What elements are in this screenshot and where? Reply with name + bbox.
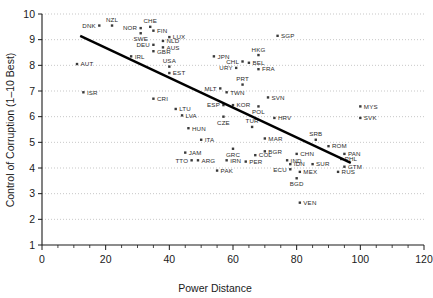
point-marker bbox=[184, 151, 186, 153]
point-label: ECU bbox=[273, 166, 287, 173]
data-point: DEU bbox=[136, 41, 154, 48]
x-tick-label: 0 bbox=[39, 253, 45, 265]
point-label: TWN bbox=[230, 89, 245, 96]
trendline bbox=[80, 36, 351, 163]
point-label: ARG bbox=[201, 157, 215, 164]
point-marker bbox=[181, 114, 183, 116]
data-point: AUT bbox=[76, 60, 94, 67]
data-point: SGP bbox=[276, 32, 294, 39]
point-marker bbox=[130, 55, 132, 57]
point-label: POL bbox=[252, 108, 265, 115]
data-point: SRB bbox=[309, 130, 322, 141]
point-label: MYS bbox=[364, 103, 378, 110]
point-label: SVK bbox=[364, 114, 378, 121]
point-marker bbox=[152, 50, 154, 52]
point-marker bbox=[139, 27, 141, 29]
data-point: BGD bbox=[290, 177, 304, 187]
point-marker bbox=[289, 163, 291, 165]
point-label: MEX bbox=[303, 168, 317, 175]
point-marker bbox=[190, 159, 192, 161]
point-marker bbox=[241, 60, 243, 62]
data-point: HKG bbox=[252, 46, 266, 57]
point-label: IDN bbox=[294, 160, 305, 167]
y-axis-title: Control of Corruption (1–10 Best) bbox=[4, 53, 16, 208]
x-tick-label: 40 bbox=[163, 253, 175, 265]
point-marker bbox=[232, 148, 234, 150]
y-tick-label: 2 bbox=[29, 213, 35, 225]
data-point: MLT bbox=[204, 85, 221, 92]
point-marker bbox=[111, 24, 113, 26]
data-point: JAM bbox=[184, 149, 202, 156]
y-tick-label: 7 bbox=[29, 85, 35, 97]
point-label: RUS bbox=[342, 168, 356, 175]
data-point: ROM bbox=[327, 142, 347, 149]
point-label: LVA bbox=[186, 112, 198, 119]
point-label: EST bbox=[173, 69, 186, 76]
data-point: CHE bbox=[143, 17, 157, 28]
point-marker bbox=[225, 91, 227, 93]
data-point: PRT bbox=[236, 75, 249, 86]
point-marker bbox=[213, 55, 215, 57]
point-marker bbox=[359, 105, 361, 107]
point-marker bbox=[152, 98, 154, 100]
point-label: VEN bbox=[303, 199, 316, 206]
point-marker bbox=[257, 54, 259, 56]
point-label: HKG bbox=[252, 46, 266, 53]
data-point: LVA bbox=[181, 112, 198, 119]
point-marker bbox=[254, 154, 256, 156]
data-point: TWN bbox=[225, 89, 244, 96]
point-marker bbox=[295, 177, 297, 179]
y-tick-label: 10 bbox=[23, 8, 35, 20]
data-point: MAR bbox=[264, 135, 283, 142]
point-marker bbox=[168, 65, 170, 67]
data-point: POL bbox=[252, 105, 265, 115]
point-label: BGD bbox=[290, 180, 304, 187]
point-marker bbox=[175, 108, 177, 110]
data-point: TTO bbox=[175, 157, 192, 164]
point-marker bbox=[98, 24, 100, 26]
data-point: FIN bbox=[152, 27, 167, 34]
point-label: KOR bbox=[237, 101, 251, 108]
point-marker bbox=[197, 159, 199, 161]
point-label: NOR bbox=[123, 24, 138, 31]
point-label: NZL bbox=[106, 16, 119, 23]
point-marker bbox=[257, 105, 259, 107]
point-label: SRB bbox=[309, 130, 322, 137]
tick-labels: 12345678910020406080100120 bbox=[23, 8, 433, 265]
point-marker bbox=[139, 32, 141, 34]
point-marker bbox=[337, 171, 339, 173]
scatter-chart: DNKNZLNORCHEFINSWELUXNLDDEUAUSGBRIRLAUTU… bbox=[0, 0, 433, 298]
point-marker bbox=[299, 171, 301, 173]
data-point: CZE bbox=[217, 115, 230, 125]
point-label: MLT bbox=[204, 85, 216, 92]
point-label: AUT bbox=[81, 60, 94, 67]
x-tick-label: 100 bbox=[352, 253, 370, 265]
point-marker bbox=[315, 139, 317, 141]
point-label: FRA bbox=[262, 65, 276, 72]
point-marker bbox=[200, 139, 202, 141]
y-tick-label: 8 bbox=[29, 59, 35, 71]
point-label: HUN bbox=[192, 125, 206, 132]
point-label: USA bbox=[163, 57, 177, 64]
x-tick-label: 20 bbox=[100, 253, 112, 265]
data-point: DNK bbox=[82, 22, 100, 29]
data-point: USA bbox=[163, 57, 177, 68]
data-point: HRV bbox=[273, 114, 292, 121]
point-marker bbox=[245, 160, 247, 162]
point-marker bbox=[267, 96, 269, 98]
point-marker bbox=[187, 127, 189, 129]
point-label: MAR bbox=[268, 135, 283, 142]
point-marker bbox=[251, 126, 253, 128]
data-point: FRA bbox=[257, 65, 275, 72]
point-label: CRI bbox=[157, 95, 168, 102]
data-point: SVK bbox=[359, 114, 377, 121]
chart-canvas: DNKNZLNORCHEFINSWELUXNLDDEUAUSGBRIRLAUTU… bbox=[0, 0, 433, 298]
data-point: NZL bbox=[106, 16, 119, 27]
point-label: TTO bbox=[175, 157, 188, 164]
point-label: URY bbox=[219, 64, 232, 71]
point-label: HRV bbox=[278, 114, 292, 121]
point-marker bbox=[248, 62, 250, 64]
plot-points: DNKNZLNORCHEFINSWELUXNLDDEUAUSGBRIRLAUTU… bbox=[76, 16, 378, 206]
point-marker bbox=[216, 169, 218, 171]
point-marker bbox=[152, 44, 154, 46]
